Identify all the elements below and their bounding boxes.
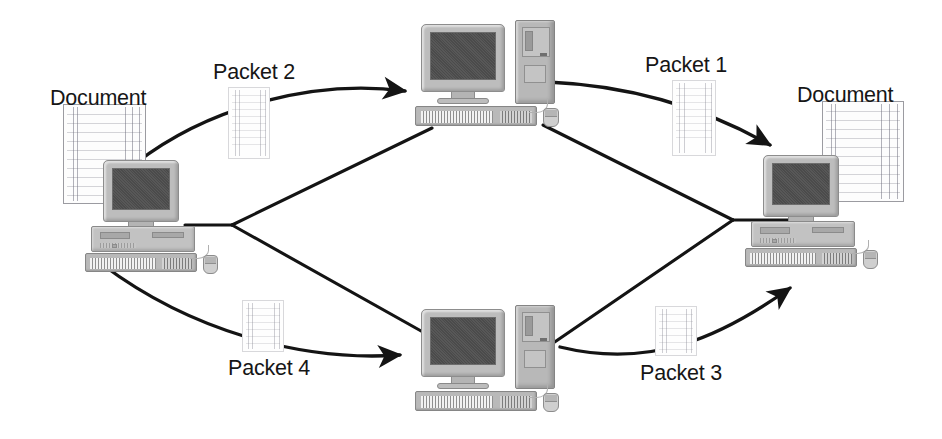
packet-3-label: Packet 3 bbox=[640, 363, 722, 385]
router-top-tower-case bbox=[515, 20, 555, 104]
packet-3-page-icon bbox=[655, 306, 697, 356]
source-keyboard-keypad bbox=[162, 258, 192, 269]
source-mouse[interactable] bbox=[203, 255, 218, 274]
source-mouse-button bbox=[205, 257, 216, 264]
destination-power-led bbox=[772, 239, 777, 243]
router-bottom-tower-case bbox=[515, 305, 555, 389]
router-bottom-keyboard-keys bbox=[421, 396, 493, 408]
destination-drive-bay bbox=[760, 227, 790, 234]
packet-routing-diagram: Document Document Packet 2 Packet 1 Pack… bbox=[0, 0, 942, 439]
router-bottom-power-led bbox=[540, 338, 547, 341]
router-bottom-monitor-base bbox=[437, 383, 489, 389]
router-top-keyboard-keypad bbox=[500, 111, 532, 123]
router-top-keyboard[interactable] bbox=[415, 106, 537, 126]
router-bottom-mouse[interactable] bbox=[543, 393, 559, 412]
router-top-power-led bbox=[540, 53, 547, 56]
router-top-monitor-base bbox=[437, 98, 489, 104]
destination-keyboard[interactable] bbox=[745, 248, 857, 267]
destination-monitor-screen bbox=[772, 163, 830, 205]
packet-2-arrow bbox=[136, 88, 405, 163]
packet-2-page-icon bbox=[228, 87, 270, 159]
router-top-monitor-screen bbox=[430, 32, 496, 80]
destination-computer[interactable] bbox=[745, 155, 875, 270]
source-system-case bbox=[91, 226, 195, 252]
router-top-mouse-button bbox=[545, 110, 557, 117]
destination-mouse[interactable] bbox=[863, 250, 878, 269]
source-case-vent bbox=[100, 243, 136, 248]
packet-4-page-icon bbox=[242, 300, 284, 352]
source-keyboard-keys bbox=[90, 258, 156, 269]
source-power-led bbox=[112, 244, 117, 248]
router-bottom-keyboard[interactable] bbox=[415, 391, 537, 411]
source-monitor-screen bbox=[112, 168, 170, 210]
destination-keyboard-keys bbox=[750, 253, 816, 264]
source-keyboard[interactable] bbox=[85, 253, 197, 272]
destination-keyboard-keypad bbox=[822, 253, 852, 264]
destination-mouse-button bbox=[865, 252, 876, 259]
router-top-drive-slot bbox=[525, 31, 533, 51]
source-document-label: Document bbox=[50, 88, 146, 110]
router-bottom-drive-slot bbox=[525, 316, 533, 336]
router-bottom-mouse-button bbox=[545, 395, 557, 402]
router-top-computer[interactable] bbox=[415, 20, 575, 135]
router-bottom-computer[interactable] bbox=[415, 305, 575, 420]
destination-case-vent bbox=[760, 238, 796, 243]
source-drive-bay bbox=[100, 232, 130, 239]
router-bottom-keyboard-keypad bbox=[500, 396, 532, 408]
packet-1-page-icon bbox=[672, 80, 716, 156]
packet-2-label: Packet 2 bbox=[213, 62, 295, 84]
source-computer[interactable] bbox=[85, 160, 215, 275]
packet-1-arrow bbox=[548, 82, 770, 145]
destination-system-case bbox=[751, 221, 855, 247]
source-drive-bay bbox=[152, 232, 184, 238]
router-top-tower-panel bbox=[524, 65, 546, 83]
destination-document-label: Document bbox=[797, 85, 893, 107]
router-top-mouse[interactable] bbox=[543, 108, 559, 127]
router-top-keyboard-keys bbox=[421, 111, 493, 123]
destination-drive-bay bbox=[812, 227, 844, 233]
packet-4-label: Packet 4 bbox=[228, 358, 310, 380]
router-bottom-monitor-screen bbox=[430, 317, 496, 365]
router-bottom-tower-panel bbox=[524, 350, 546, 368]
packet-1-label: Packet 1 bbox=[645, 55, 727, 77]
